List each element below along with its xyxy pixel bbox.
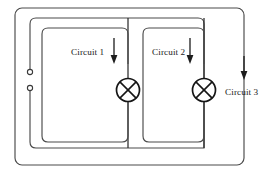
circuit-1-inner-loop: [42, 28, 128, 142]
current-arrow-circuit-2: [187, 38, 194, 64]
lamp-symbol-1: [117, 79, 140, 102]
circuit-diagram: Circuit 1 Circuit 2 Circuit 3: [0, 0, 271, 173]
current-arrow-circuit-1: [111, 38, 118, 64]
label-circuit-3: Circuit 3: [225, 88, 258, 97]
lamp-symbol-2: [193, 79, 216, 102]
current-arrow-circuit-3: [241, 56, 248, 80]
terminal-node-top: [27, 69, 32, 74]
label-circuit-2: Circuit 2: [152, 48, 185, 57]
circuit-supply-rail: [30, 18, 204, 148]
terminal-node-bottom: [27, 85, 32, 90]
label-circuit-1: Circuit 1: [71, 48, 104, 57]
